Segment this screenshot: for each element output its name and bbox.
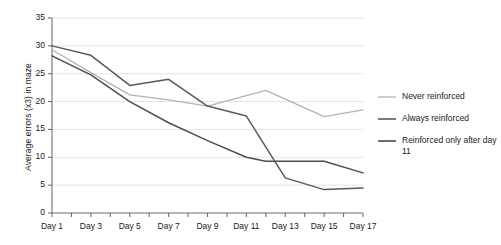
x-axis-tick-label: Day 1 xyxy=(32,221,72,231)
x-axis-tick-label: Day 5 xyxy=(110,221,150,231)
y-axis-tick-label: 35 xyxy=(19,12,45,22)
y-axis-tick-label: 15 xyxy=(19,123,45,133)
x-axis-tick-label: Day 11 xyxy=(226,221,266,231)
legend-item-label: Reinforced only after day 11 xyxy=(402,135,501,157)
x-axis-tick-label: Day 13 xyxy=(265,221,305,231)
x-axis-tick-label: Day 9 xyxy=(188,221,228,231)
series-lines xyxy=(52,46,363,190)
y-axis-tick-label: 5 xyxy=(19,179,45,189)
y-axis-tick-label: 30 xyxy=(19,40,45,50)
y-axis-tick-label: 20 xyxy=(19,96,45,106)
x-axis-ticks xyxy=(52,213,363,217)
gridlines xyxy=(52,18,363,185)
axis-lines xyxy=(52,18,363,213)
x-axis-tick-label: Day 3 xyxy=(71,221,111,231)
x-axis-tick-label: Day 7 xyxy=(149,221,189,231)
y-axis-ticks xyxy=(48,18,52,213)
legend-swatches xyxy=(378,97,396,141)
legend-item-label: Never reinforced xyxy=(402,91,501,102)
y-axis-tick-label: 25 xyxy=(19,68,45,78)
y-axis-tick-label: 10 xyxy=(19,151,45,161)
series-line-1 xyxy=(52,46,363,190)
y-axis-tick-label: 0 xyxy=(19,207,45,217)
x-axis-tick-label: Day 15 xyxy=(304,221,344,231)
y-axis-title: Average errors (x3) in maze xyxy=(23,37,33,197)
legend-item-label: Always reinforced xyxy=(402,113,501,124)
x-axis-tick-label: Day 17 xyxy=(343,221,383,231)
